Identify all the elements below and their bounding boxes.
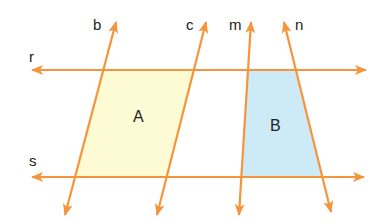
label-m: m xyxy=(229,16,242,33)
label-r: r xyxy=(29,48,34,65)
label-n: n xyxy=(295,16,303,33)
label-b: b xyxy=(93,16,101,33)
geometry-diagram: b c m n r s A B xyxy=(0,0,387,222)
label-c: c xyxy=(186,16,194,33)
label-region-a: A xyxy=(133,108,144,125)
label-s: s xyxy=(29,152,37,169)
label-region-b: B xyxy=(270,117,281,134)
